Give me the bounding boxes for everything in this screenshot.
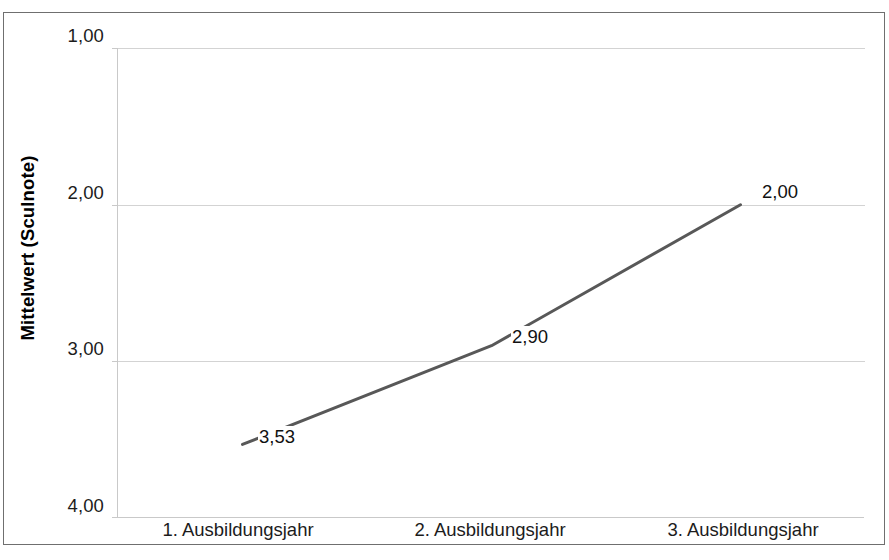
plot-area: [117, 48, 864, 518]
data-label-year1: 3,53: [258, 426, 296, 448]
x-tick-label-year2: 2. Ausbildungsjahr: [414, 519, 565, 541]
series-line: [118, 48, 865, 518]
data-label-year2: 2,90: [511, 326, 549, 348]
y-tick-label-3: 3,00: [42, 338, 104, 360]
chart-outer-frame: Mittelwert (Sculnote) 1,00 2,00 3,00 4,0…: [3, 12, 885, 545]
x-tick-label-year3: 3. Ausbildungsjahr: [667, 519, 818, 541]
data-label-year3: 2,00: [761, 181, 799, 203]
y-tick-label-4: 4,00: [42, 495, 104, 517]
y-tick-label-1: 1,00: [42, 25, 104, 47]
y-axis-title: Mittelwert (Sculnote): [10, 13, 46, 483]
x-tick-label-year1: 1. Ausbildungsjahr: [162, 519, 313, 541]
chart-figure: Mittelwert (Sculnote) 1,00 2,00 3,00 4,0…: [0, 0, 889, 560]
y-axis-title-text: Mittelwert (Sculnote): [17, 155, 39, 340]
y-tick-label-2: 2,00: [42, 182, 104, 204]
series-polyline: [243, 205, 741, 445]
